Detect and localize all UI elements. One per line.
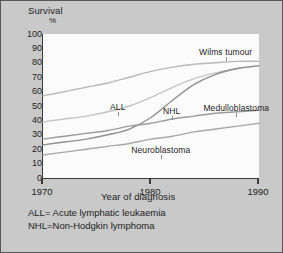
y-axis-tick: 30	[5, 130, 42, 139]
y-axis-tick-label: 10	[14, 159, 42, 168]
y-axis-tick: 40	[5, 116, 42, 125]
series-label-leader	[118, 112, 119, 116]
y-axis-tick: 90	[5, 44, 42, 53]
y-axis-tick: 60	[5, 87, 42, 96]
series-label-all: ALL	[110, 102, 125, 112]
y-axis-tick-label: 0	[14, 174, 42, 183]
x-axis-tick-mark	[257, 178, 259, 184]
y-axis-unit-label: %	[49, 16, 56, 25]
series-label-leader	[172, 116, 173, 120]
series-label-leader	[161, 155, 162, 159]
series-line	[43, 110, 259, 139]
series-line	[43, 66, 259, 122]
x-axis-tick-mark	[149, 178, 151, 184]
y-axis-tick: 80	[5, 58, 42, 67]
x-axis-tick-mark	[41, 178, 43, 184]
series-label-leader	[226, 57, 227, 61]
x-axis-title: Year of diagnosis	[101, 191, 175, 202]
series-label-medulloblastoma: Medulloblastoma	[203, 103, 269, 113]
y-axis-tick: 20	[5, 145, 42, 154]
survival-chart-figure: Survival % 1009080706050403020100 197019…	[0, 0, 283, 253]
y-axis-tick-label: 30	[14, 130, 42, 139]
y-axis-tick: 70	[5, 73, 42, 82]
footnote-nhl: NHL=Non-Hodgkin lymphoma	[28, 220, 154, 231]
series-label-wilms-tumour: Wilms tumour	[199, 47, 252, 57]
footnote-all: ALL= Acute lymphatic leukaemia	[28, 207, 166, 218]
y-axis-tick-label: 100	[14, 30, 42, 39]
y-axis-tick-label: 50	[14, 102, 42, 111]
y-axis-tick-label: 60	[14, 87, 42, 96]
y-axis-tick: 50	[5, 102, 42, 111]
series-label-leader	[236, 113, 237, 117]
y-axis-tick-label: 80	[14, 58, 42, 67]
y-axis-tick: 100	[5, 30, 42, 39]
y-axis-tick-label: 40	[14, 116, 42, 125]
y-axis-tick-label: 20	[14, 145, 42, 154]
series-label-nhl: NHL	[163, 106, 180, 116]
series-label-neuroblastoma: Neuroblastoma	[131, 145, 190, 155]
x-axis-tick-label: 1970	[22, 186, 62, 197]
series-line	[43, 61, 259, 96]
y-axis-tick-label: 70	[14, 73, 42, 82]
y-axis-title: Survival	[28, 5, 63, 16]
x-axis-tick-label: 1990	[238, 186, 278, 197]
y-axis-tick: 0	[5, 174, 42, 183]
y-axis-tick-label: 90	[14, 44, 42, 53]
y-axis-tick: 10	[5, 159, 42, 168]
